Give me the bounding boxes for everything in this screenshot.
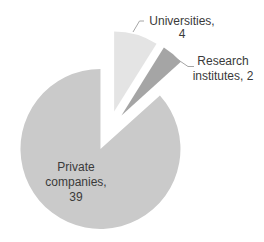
universities-data-label: Universities, 4: [138, 15, 226, 41]
pie-chart: Universities, 4 Research institutes, 2 P…: [0, 0, 264, 242]
private-companies-label-line-2: companies,: [34, 175, 118, 190]
research-institutes-data-label: Research institutes, 2: [184, 54, 262, 84]
research-institutes-label-line-1: Research: [184, 54, 262, 69]
private-companies-label-line-3: 39: [34, 190, 118, 205]
research-institutes-label-line-2: institutes, 2: [184, 69, 262, 84]
universities-label-line-2: 4: [138, 28, 226, 41]
private-companies-label-line-1: Private: [34, 160, 118, 175]
private-companies-data-label: Private companies, 39: [34, 160, 118, 205]
